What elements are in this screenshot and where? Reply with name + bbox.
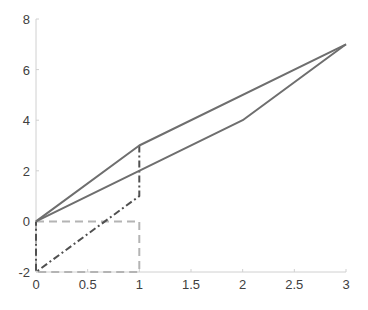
line-chart: 00.511.522.53-202468 [0,0,368,310]
series-solid-upper [36,44,346,221]
series-dashed-box [36,221,139,272]
y-tick-label: 0 [23,214,30,229]
y-tick-label: -2 [18,265,30,280]
x-tick-label: 1 [136,277,143,292]
x-tick-label: 2.5 [285,277,303,292]
y-tick-label: 8 [23,12,30,27]
y-tick-label: 4 [23,113,30,128]
x-tick-label: 3 [342,277,349,292]
x-tick-label: 1.5 [182,277,200,292]
series-dashdot-path [36,146,139,273]
x-tick-label: 2 [239,277,246,292]
series-group [36,44,346,272]
y-tick-label: 6 [23,63,30,78]
x-tick-label: 0.5 [79,277,97,292]
series-solid-lower [36,44,346,221]
x-tick-label: 0 [32,277,39,292]
tick-labels: 00.511.522.53-202468 [18,12,349,292]
y-tick-label: 2 [23,164,30,179]
